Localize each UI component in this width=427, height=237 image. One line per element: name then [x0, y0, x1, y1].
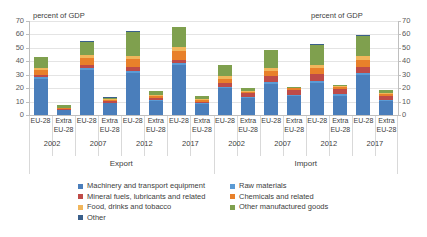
x-axis-category-label: EU-28 — [30, 117, 52, 126]
bar-column[interactable] — [172, 27, 186, 115]
category-label-line1: EU-28 — [77, 117, 97, 124]
category-separator — [329, 116, 330, 156]
x-axis-category-label: EU-28 — [306, 117, 328, 126]
bar-segment — [218, 65, 232, 76]
category-label-line2: EU-28 — [191, 126, 213, 135]
x-axis-category-label: ExtraEU-28 — [99, 117, 121, 134]
category-label-line1: Extra — [55, 117, 71, 124]
bar-column[interactable] — [310, 44, 324, 115]
category-label-line1: Extra — [102, 117, 118, 124]
bar-column[interactable] — [126, 31, 140, 115]
axis-line-right — [398, 21, 399, 115]
legend-item[interactable]: Other manufactured goods — [230, 202, 328, 212]
category-label-line2: EU-28 — [237, 126, 259, 135]
legend-swatch — [230, 194, 235, 199]
y-axis-tick-label-left: 60 — [6, 30, 24, 38]
bar-column[interactable] — [356, 35, 370, 115]
bar-segment — [103, 103, 117, 115]
category-label-line1: EU-28 — [31, 117, 51, 124]
category-label-line1: EU-28 — [123, 117, 143, 124]
bar-column[interactable] — [195, 96, 209, 115]
category-label-line2: EU-28 — [329, 126, 351, 135]
bar-column[interactable] — [287, 87, 301, 115]
category-label-line2: EU-28 — [53, 126, 75, 135]
bar-segment — [287, 96, 301, 115]
year-separator — [306, 134, 307, 156]
x-axis-category-label: ExtraEU-28 — [375, 117, 397, 134]
category-label-line1: Extra — [148, 117, 164, 124]
category-separator — [375, 116, 376, 156]
x-axis-category-label: EU-28 — [122, 117, 144, 126]
category-separator — [144, 116, 145, 156]
legend-swatch — [78, 184, 83, 189]
category-label-line1: EU-28 — [261, 117, 281, 124]
bar-segment — [80, 42, 94, 55]
legend-label: Chemicals and related — [239, 192, 314, 202]
bar-segment — [356, 60, 370, 67]
x-axis-category-label: EU-28 — [214, 117, 236, 126]
category-separator — [190, 116, 191, 156]
bar-segment — [34, 57, 48, 68]
bar-column[interactable] — [57, 105, 71, 115]
legend-label: Other manufactured goods — [239, 202, 328, 212]
bar-segment — [310, 74, 324, 81]
chart-legend: Machinery and transport equipmentRaw mat… — [78, 181, 378, 229]
legend-item[interactable]: Mineral fuels, lubricants and related — [78, 192, 205, 202]
bar-segment — [379, 101, 393, 115]
bar-segment — [310, 83, 324, 115]
y-axis-tick-label-right: 0 — [402, 111, 420, 119]
bar-column[interactable] — [264, 50, 278, 115]
bar-segment — [356, 36, 370, 56]
bar-column[interactable] — [80, 41, 94, 115]
year-separator — [121, 134, 122, 156]
bar-segment — [172, 27, 186, 47]
bar-segment — [172, 65, 186, 115]
legend-label: Mineral fuels, lubricants and related — [87, 192, 205, 202]
x-axis-group-label: Import — [246, 158, 366, 170]
legend-item[interactable]: Raw materials — [230, 181, 287, 191]
legend-item[interactable]: Machinery and transport equipment — [78, 181, 205, 191]
legend-item[interactable]: Other — [78, 213, 106, 223]
legend-item[interactable]: Food, drinks and tobacco — [78, 202, 171, 212]
group-separator — [29, 116, 30, 174]
y-axis-tick-label-left: 30 — [6, 71, 24, 79]
bar-segment — [57, 110, 71, 115]
x-axis-category-label: ExtraEU-28 — [237, 117, 259, 134]
legend-swatch — [78, 194, 83, 199]
bar-column[interactable] — [379, 90, 393, 115]
x-axis-category-label: EU-28 — [76, 117, 98, 126]
year-separator — [167, 134, 168, 156]
bar-segment — [356, 75, 370, 115]
x-axis-category-label: ExtraEU-28 — [53, 117, 75, 134]
bar-column[interactable] — [34, 57, 48, 115]
bar-segment — [195, 104, 209, 115]
y-axis-tick-label-left: 40 — [6, 57, 24, 65]
bar-column[interactable] — [103, 97, 117, 115]
category-label-line1: Extra — [378, 117, 394, 124]
bar-column[interactable] — [333, 85, 347, 115]
x-axis-year-label: 2002 — [29, 138, 75, 149]
legend-item[interactable]: Chemicals and related — [230, 192, 314, 202]
x-axis-category-label: ExtraEU-28 — [329, 117, 351, 134]
legend-label: Machinery and transport equipment — [87, 181, 205, 191]
legend-label: Raw materials — [239, 181, 287, 191]
legend-swatch — [78, 215, 83, 220]
category-label-line1: EU-28 — [307, 117, 327, 124]
x-axis-category-label: ExtraEU-28 — [191, 117, 213, 134]
category-label-line2: EU-28 — [99, 126, 121, 135]
category-label-line2: EU-28 — [283, 126, 305, 135]
y-axis-tick-label-right: 40 — [402, 57, 420, 65]
bar-column[interactable] — [149, 91, 163, 115]
y-axis-title-right: percent of GDP — [311, 11, 363, 20]
bar-column[interactable] — [241, 88, 255, 115]
category-label-line1: Extra — [194, 117, 210, 124]
category-separator — [52, 116, 53, 156]
category-label-line1: EU-28 — [215, 117, 235, 124]
x-axis-group-label: Export — [61, 158, 181, 170]
bar-segment — [172, 51, 186, 60]
category-label-line1: EU-28 — [353, 117, 373, 124]
legend-swatch — [230, 184, 235, 189]
bar-column[interactable] — [218, 65, 232, 115]
year-separator — [260, 134, 261, 156]
year-separator — [352, 134, 353, 156]
